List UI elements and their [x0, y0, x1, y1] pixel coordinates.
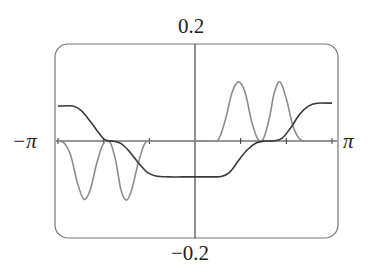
chart-canvas [0, 0, 377, 274]
y-max-label: 0.2 [178, 14, 204, 39]
y-min-label: −0.2 [171, 241, 209, 266]
x-max-label: π [343, 129, 354, 154]
x-min-label: −π [12, 129, 37, 154]
